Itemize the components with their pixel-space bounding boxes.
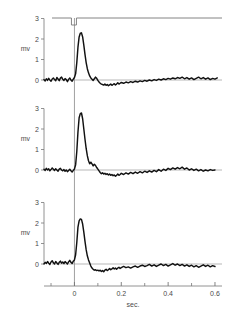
y-tick-label-1-0: 3 — [35, 15, 39, 22]
y-tick-label-2-3: 0 — [35, 167, 39, 174]
y-tick-label-3-2: 1 — [35, 240, 39, 247]
y-tick-label-3-0: 3 — [35, 199, 39, 206]
y-axis-unit-label-1: mv — [21, 45, 31, 52]
y-tick-label-1-3: 0 — [35, 77, 39, 84]
y-axis-unit-label-2: mv — [21, 135, 31, 142]
stimulus-trace-line — [52, 18, 222, 25]
y-tick-label-3-1: 2 — [35, 220, 39, 227]
y-tick-label-2-2: 1 — [35, 146, 39, 153]
x-axis: 00.20.40.6sec. — [44, 282, 222, 308]
y-tick-label-3-3: 0 — [35, 261, 39, 268]
trace-line-2 — [44, 113, 215, 176]
x-axis-title: sec. — [127, 301, 140, 308]
evoked-potential-chart: 3210mv3210mv3210mv00.20.40.6sec. — [0, 0, 225, 322]
trace-line-1 — [44, 33, 217, 86]
x-tick-label-0: 0 — [72, 290, 76, 297]
panel-1: 3210mv — [21, 15, 222, 86]
x-tick-label-2: 0.4 — [163, 290, 173, 297]
figure-container: 3210mv3210mv3210mv00.20.40.6sec. — [0, 0, 225, 322]
y-tick-label-2-1: 2 — [35, 126, 39, 133]
y-tick-label-1-1: 2 — [35, 36, 39, 43]
x-tick-label-1: 0.2 — [116, 290, 126, 297]
panel-3: 3210mv — [21, 199, 222, 272]
y-tick-label-1-2: 1 — [35, 56, 39, 63]
y-axis-unit-label-3: mv — [21, 229, 31, 236]
panel-2: 3210mv — [21, 105, 222, 176]
x-tick-label-3: 0.6 — [210, 290, 220, 297]
y-tick-label-2-0: 3 — [35, 105, 39, 112]
